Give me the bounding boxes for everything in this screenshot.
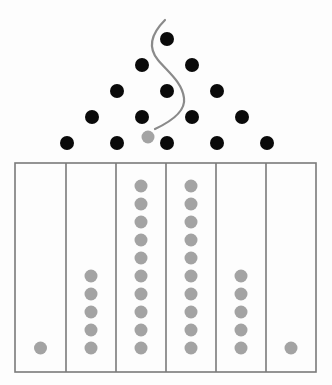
collected-ball [185, 306, 198, 319]
collected-ball [85, 288, 98, 301]
collected-ball [185, 288, 198, 301]
collected-ball [235, 324, 248, 337]
collected-ball [135, 342, 148, 355]
collected-ball [285, 342, 298, 355]
collected-ball [185, 198, 198, 211]
galton-board-diagram [0, 0, 332, 385]
collected-ball [185, 342, 198, 355]
collected-ball [185, 252, 198, 265]
collected-ball [85, 306, 98, 319]
collected-ball [135, 288, 148, 301]
peg [85, 110, 99, 124]
collected-ball [235, 288, 248, 301]
peg-triangle [60, 32, 274, 150]
peg [210, 84, 224, 98]
peg [110, 84, 124, 98]
collected-ball [85, 324, 98, 337]
peg [110, 136, 124, 150]
peg [160, 32, 174, 46]
bin-3-stack [135, 180, 148, 355]
peg [260, 136, 274, 150]
peg [160, 136, 174, 150]
peg [210, 136, 224, 150]
peg [185, 110, 199, 124]
collected-ball [135, 270, 148, 283]
collected-ball [85, 342, 98, 355]
collected-ball [235, 270, 248, 283]
collected-ball [135, 234, 148, 247]
collected-ball [235, 306, 248, 319]
bin-1-stack [34, 342, 47, 355]
collected-ball [135, 306, 148, 319]
peg [185, 58, 199, 72]
collected-ball [135, 252, 148, 265]
collection-bins [15, 163, 316, 372]
collected-ball [34, 342, 47, 355]
peg [135, 110, 149, 124]
collected-ball [185, 234, 198, 247]
galton-board-canvas [0, 0, 332, 385]
peg [235, 110, 249, 124]
collected-ball [135, 180, 148, 193]
peg [135, 58, 149, 72]
collected-ball [135, 216, 148, 229]
falling-ball [142, 131, 155, 144]
bin-2-stack [85, 270, 98, 355]
peg [160, 84, 174, 98]
peg [60, 136, 74, 150]
collected-ball [185, 270, 198, 283]
collected-ball [185, 216, 198, 229]
collected-ball [235, 342, 248, 355]
collected-ball [185, 324, 198, 337]
collected-ball [185, 180, 198, 193]
collected-ball [135, 324, 148, 337]
bin-6-stack [285, 342, 298, 355]
bin-5-stack [235, 270, 248, 355]
collected-ball [85, 270, 98, 283]
collected-ball [135, 198, 148, 211]
bin-4-stack [185, 180, 198, 355]
